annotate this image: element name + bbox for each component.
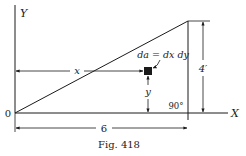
base-label: 6: [101, 123, 107, 134]
height-label: 4′: [198, 63, 208, 74]
x-axis-label: X: [230, 107, 240, 120]
origin-label: 0: [5, 108, 11, 119]
figure-caption: Fig. 418: [98, 139, 140, 150]
area-element-square: [144, 67, 152, 75]
right-angle-label: 90°: [168, 101, 183, 111]
y-distance-label: y: [144, 86, 151, 97]
y-axis-label: Y: [20, 7, 29, 20]
x-distance-label: x: [74, 65, 80, 76]
element-label: da = dx dy: [137, 49, 189, 60]
element-leader-line: [153, 60, 160, 68]
diagram-canvas: 4′ 6 x y da = dx dy 90° Y X 0 Fig. 418: [0, 0, 246, 156]
triangle-hypotenuse: [15, 21, 188, 113]
